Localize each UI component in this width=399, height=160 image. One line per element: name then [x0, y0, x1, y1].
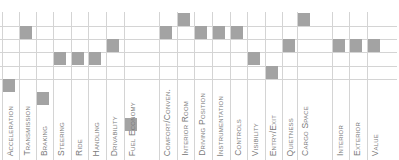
category-label-text: Visibility: [251, 123, 260, 156]
category-label-text: Instrumentation: [216, 96, 225, 156]
category-label: Value: [368, 6, 382, 156]
category-label: Drivability: [107, 6, 121, 156]
category-label: Handling: [89, 6, 103, 156]
category-label: Entry/Exit: [266, 6, 280, 156]
category-label-text: Braking: [40, 126, 49, 156]
category-label: Braking: [37, 6, 51, 156]
category-label: Quietness: [283, 6, 297, 156]
category-label: Driving Position: [195, 6, 209, 156]
category-label: Comfort/Conven.: [160, 6, 174, 156]
category-label: Cargo Space: [298, 6, 312, 156]
category-label-text: Drivability: [110, 116, 119, 156]
category-label-text: Exterior: [353, 122, 362, 156]
category-label-text: Controls: [234, 119, 243, 156]
category-label: Visibility: [248, 6, 262, 156]
category-label-text: Transmission: [23, 106, 32, 156]
category-label-text: Quietness: [286, 118, 295, 156]
category-label: Ride: [72, 6, 86, 156]
category-label-text: Steering: [57, 122, 66, 156]
category-label-text: Driving Position: [198, 93, 207, 156]
category-label: Transmission: [20, 6, 34, 156]
category-label: Interior Room: [178, 6, 192, 156]
category-label-text: Entry/Exit: [269, 115, 278, 156]
category-label-text: Ride: [75, 139, 84, 156]
category-label-text: Interior: [336, 125, 345, 156]
category-label: Instrumentation: [213, 6, 227, 156]
category-label-text: Cargo Space: [301, 106, 310, 156]
category-label-text: Interior Room: [181, 101, 190, 156]
rating-grid-chart: AccelerationTransmissionBrakingSteeringR…: [0, 0, 399, 160]
category-label: Exterior: [350, 6, 364, 156]
category-label: Controls: [231, 6, 245, 156]
category-label-text: Comfort/Conven.: [163, 89, 172, 156]
category-label: Interior: [333, 6, 347, 156]
category-label-text: Value: [371, 134, 380, 156]
category-label-text: Handling: [92, 122, 101, 156]
category-label: Steering: [54, 6, 68, 156]
category-label-text: Acceleration: [6, 106, 15, 156]
category-label: Acceleration: [3, 6, 17, 156]
category-label: Fuel Economy: [125, 6, 139, 156]
category-label-text: Fuel Economy: [128, 102, 137, 156]
